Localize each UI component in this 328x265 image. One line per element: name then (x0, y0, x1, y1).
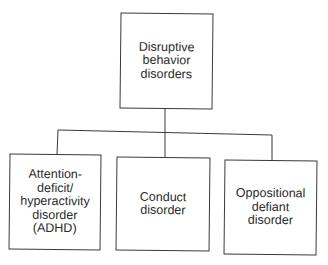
root-node-label: Disruptive behavior disorders (138, 40, 194, 81)
child-node-oppositional-defiant-disorder: Oppositional defiant disorder (224, 160, 318, 256)
child-node-conduct-disorder: Conduct disorder (116, 157, 211, 252)
child-node-adhd: Attention- deficit/ hyperactivity disord… (8, 154, 101, 251)
child-node-label: Conduct disorder (140, 190, 187, 217)
child-node-label: Oppositional defiant disorder (236, 187, 306, 228)
root-node-disruptive-behavior-disorders: Disruptive behavior disorders (119, 13, 213, 110)
child-node-label: Attention- deficit/ hyperactivity disord… (20, 168, 90, 236)
